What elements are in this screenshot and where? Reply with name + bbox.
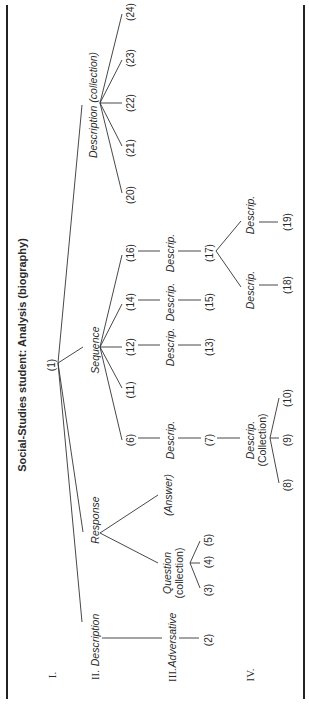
node-9: (9) bbox=[282, 434, 293, 446]
node-23: (23) bbox=[125, 49, 136, 67]
edge-collection-10 bbox=[270, 398, 279, 438]
node-answer: (Answer) bbox=[162, 474, 174, 516]
edge-17-descrip-18 bbox=[216, 251, 241, 287]
edge-response-answer bbox=[100, 495, 158, 533]
node-adversative: Adversative bbox=[166, 612, 178, 668]
node-question-collection: (collection) bbox=[173, 548, 185, 599]
edge-question-3 bbox=[190, 563, 200, 588]
node-2: (2) bbox=[203, 634, 214, 646]
edge-1-description bbox=[58, 363, 82, 622]
edge-sequence-16 bbox=[100, 255, 122, 347]
node-14: (14) bbox=[125, 293, 136, 311]
node-descrip-19: Descrip. bbox=[244, 196, 256, 235]
node-24: (24) bbox=[125, 3, 136, 21]
node-22: (22) bbox=[125, 94, 136, 112]
edge-collection-8 bbox=[270, 438, 279, 483]
edge-question-5 bbox=[190, 541, 200, 563]
edge-collection-21 bbox=[100, 103, 122, 146]
edge-sequence-14 bbox=[100, 304, 122, 347]
node-1: (1) bbox=[46, 359, 57, 371]
node-18: (18) bbox=[282, 276, 293, 294]
node-response: Response bbox=[89, 496, 101, 543]
diagram-title: Social-Studies student: Analysis (biogra… bbox=[16, 238, 28, 472]
edge-response-question bbox=[100, 533, 158, 563]
node-20: (20) bbox=[125, 186, 136, 204]
node-descrip-6: Descrip. bbox=[164, 421, 176, 460]
node-3: (3) bbox=[203, 584, 214, 596]
node-21: (21) bbox=[125, 139, 136, 157]
node-17: (17) bbox=[204, 244, 215, 262]
node-descrip-16: Descrip. bbox=[164, 234, 176, 273]
node-12: (12) bbox=[125, 338, 136, 356]
node-description-collection: Description (collection) bbox=[87, 52, 99, 158]
edge-collection-23 bbox=[100, 60, 122, 103]
node-11: (11) bbox=[125, 381, 136, 398]
edge-1-sequence bbox=[58, 347, 83, 363]
edge-sequence-6 bbox=[100, 347, 122, 440]
node-16: (16) bbox=[125, 244, 136, 262]
node-13: (13) bbox=[204, 338, 215, 356]
node-descrip-14: Descrip. bbox=[164, 283, 176, 322]
node-sequence: Sequence bbox=[89, 326, 101, 373]
analysis-tree-diagram: Social-Studies student: Analysis (biogra… bbox=[0, 0, 309, 704]
edge-collection-20 bbox=[100, 103, 122, 193]
node-4: (4) bbox=[203, 556, 214, 568]
node-descrip-12: Descrip. bbox=[164, 328, 176, 367]
node-7: (7) bbox=[204, 434, 215, 446]
level-3-marker: III. bbox=[166, 668, 178, 682]
node-6: (6) bbox=[125, 434, 136, 446]
edge-17-descrip-19 bbox=[216, 221, 241, 251]
node-question: Question bbox=[161, 552, 173, 594]
node-10: (10) bbox=[282, 389, 293, 407]
level-1-marker: I. bbox=[46, 672, 58, 679]
node-8: (8) bbox=[282, 479, 293, 491]
edge-1-response bbox=[58, 363, 83, 532]
level-2-marker: II. bbox=[89, 670, 101, 680]
edge-collection-24 bbox=[100, 14, 122, 103]
node-19: (19) bbox=[282, 213, 293, 231]
node-descrip-collection: Descrip. bbox=[244, 421, 256, 460]
edge-1-description-collection bbox=[58, 105, 82, 363]
node-15: (15) bbox=[204, 293, 215, 311]
node-5: (5) bbox=[203, 534, 214, 546]
edge-sequence-11 bbox=[100, 347, 122, 388]
node-descrip-collection-sub: (Collection) bbox=[256, 413, 268, 466]
level-4-marker: IV. bbox=[244, 668, 256, 681]
node-description-left: Description bbox=[89, 614, 101, 667]
node-descrip-18: Descrip. bbox=[244, 271, 256, 310]
